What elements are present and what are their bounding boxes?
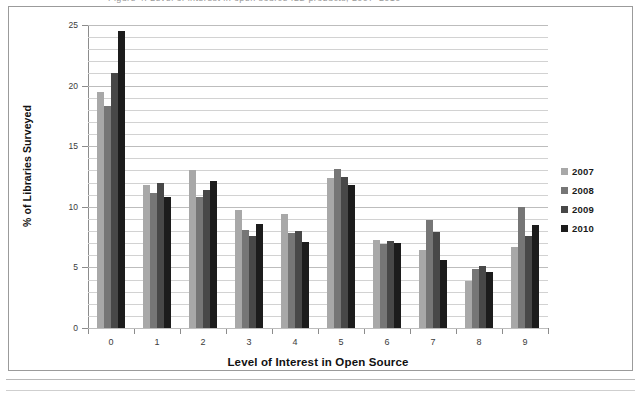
legend-swatch-icon [561, 168, 568, 175]
y-axis-tick-label: 15 [38, 141, 78, 151]
gridline [88, 73, 548, 74]
x-axis-tick [318, 329, 319, 334]
gridline [88, 25, 548, 26]
bar [157, 183, 164, 328]
page-rule-bottom [6, 390, 635, 391]
bar [256, 224, 263, 328]
legend-swatch-icon [561, 206, 568, 213]
x-axis-tick-label: 5 [326, 337, 356, 347]
bar [348, 185, 355, 328]
y-axis-title: % of Libraries Surveyed [21, 81, 33, 251]
bar [486, 272, 493, 328]
bar [97, 92, 104, 328]
x-axis-tick-label: 4 [280, 337, 310, 347]
legend-label: 2007 [572, 166, 594, 177]
gridline [88, 146, 548, 147]
bar [210, 181, 217, 328]
bar [479, 266, 486, 328]
x-axis-tick [548, 329, 549, 334]
bar [235, 210, 242, 328]
y-axis-tick [82, 146, 88, 147]
legend-label: 2008 [572, 185, 594, 196]
bar [242, 230, 249, 328]
x-axis-tick-label: 8 [464, 337, 494, 347]
x-axis-tick [456, 329, 457, 334]
legend-label: 2010 [572, 223, 594, 234]
bar [203, 190, 210, 328]
y-axis-tick-label: 20 [38, 81, 78, 91]
bar [465, 281, 472, 328]
plot-area [88, 25, 548, 328]
bar [196, 197, 203, 328]
y-axis-tick-label: 0 [38, 323, 78, 333]
y-axis-tick-label: 10 [38, 202, 78, 212]
bar [143, 185, 150, 328]
legend-item-2008: 2008 [561, 181, 623, 200]
y-axis-tick [82, 25, 88, 26]
bar [511, 247, 518, 328]
x-axis-tick [410, 329, 411, 334]
bar [334, 169, 341, 328]
x-axis-tick [502, 329, 503, 334]
bar [281, 214, 288, 328]
x-axis-tick-label: 6 [372, 337, 402, 347]
bar [419, 250, 426, 328]
gridline [88, 158, 548, 159]
gridline [88, 37, 548, 38]
legend-swatch-icon [561, 225, 568, 232]
gridline [88, 122, 548, 123]
bar [380, 244, 387, 328]
bar [472, 269, 479, 328]
y-axis-tick-label: 25 [38, 20, 78, 30]
bar [111, 73, 118, 328]
bar [295, 231, 302, 328]
bar [394, 243, 401, 328]
bar [518, 207, 525, 328]
y-axis-tick [82, 207, 88, 208]
bar [164, 197, 171, 328]
gridline [88, 110, 548, 111]
x-axis-tick-label: 2 [188, 337, 218, 347]
legend-item-2010: 2010 [561, 219, 623, 238]
bar [387, 241, 394, 328]
bar [525, 236, 532, 328]
bar [440, 260, 447, 328]
bar [426, 220, 433, 328]
bar [341, 177, 348, 329]
bar [150, 193, 157, 328]
chart-legend: 2007200820092010 [561, 162, 623, 238]
x-axis-tick-label: 0 [96, 337, 126, 347]
legend-item-2009: 2009 [561, 200, 623, 219]
gridline [88, 61, 548, 62]
bar [189, 170, 196, 328]
gridline [88, 170, 548, 171]
x-axis-tick [88, 329, 89, 334]
y-axis-tick [82, 86, 88, 87]
bar [532, 225, 539, 328]
x-axis-tick [134, 329, 135, 334]
legend-item-2007: 2007 [561, 162, 623, 181]
x-axis-tick [364, 329, 365, 334]
gridline [88, 86, 548, 87]
y-axis-tick-label: 5 [38, 262, 78, 272]
legend-label: 2009 [572, 204, 594, 215]
x-axis-tick-label: 7 [418, 337, 448, 347]
x-axis-tick-label: 9 [510, 337, 540, 347]
x-axis-tick [272, 329, 273, 334]
bar [249, 236, 256, 328]
bar [288, 233, 295, 328]
x-axis-tick-label: 1 [142, 337, 172, 347]
gridline [88, 98, 548, 99]
x-axis-tick [226, 329, 227, 334]
bar [104, 106, 111, 328]
y-axis-tick [82, 267, 88, 268]
bar [373, 240, 380, 328]
bar [433, 232, 440, 328]
bar [327, 178, 334, 328]
legend-swatch-icon [561, 187, 568, 194]
x-axis-title: Level of Interest in Open Source [88, 356, 548, 368]
bar [302, 242, 309, 328]
x-axis-tick-label: 3 [234, 337, 264, 347]
gridline [88, 134, 548, 135]
x-axis-tick [180, 329, 181, 334]
